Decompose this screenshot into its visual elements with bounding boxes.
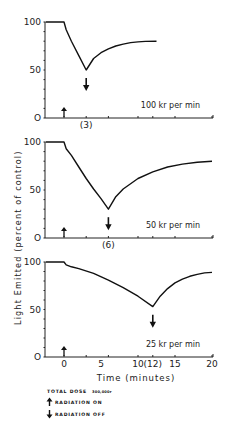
y-tick-label: O <box>34 233 41 243</box>
legend-radiation-off: RADIATION OFF <box>55 412 106 417</box>
x-axis-label: Time (minutes) <box>96 373 176 383</box>
x-tick-label: 5 <box>98 359 104 369</box>
radiation-light-chart: O50100(3)100 kr per minO50100(6)50 kr pe… <box>0 0 235 433</box>
x-tick-label: 20 <box>206 359 218 369</box>
x-tick-label: 10 <box>132 359 144 369</box>
y-tick-label: O <box>34 352 41 362</box>
legend-total-dose: TOTAL DOSE <box>47 389 87 394</box>
legend-radiation-on: RADIATION ON <box>55 400 102 405</box>
legend: TOTAL DOSE 300,000r RADIATION ON RADIATI… <box>47 389 112 419</box>
radiation-off-time-label: (3) <box>80 120 93 130</box>
radiation-on-arrowhead <box>61 107 67 111</box>
data-line <box>46 22 157 70</box>
radiation-off-arrowhead <box>150 322 156 328</box>
y-tick-label: 100 <box>24 257 41 267</box>
radiation-on-arrowhead <box>61 346 67 350</box>
x-tick-label: 0 <box>61 359 67 369</box>
y-tick-label: 50 <box>30 65 42 75</box>
x-tick-label: 15 <box>169 359 180 369</box>
y-tick-label: 100 <box>24 17 41 27</box>
panel-1: O50100(3)100 kr per min <box>24 17 213 130</box>
radiation-on-arrowhead <box>61 227 67 231</box>
y-tick-label: 50 <box>30 305 42 315</box>
y-axis-label: Light Emitted (percent of control) <box>14 150 23 325</box>
dose-rate-annotation: 100 kr per min <box>141 101 200 110</box>
radiation-on-icon <box>47 398 53 407</box>
radiation-off-arrowhead <box>105 224 111 230</box>
radiation-off-arrowhead <box>83 85 89 91</box>
radiation-off-icon <box>47 410 53 419</box>
y-tick-label: O <box>34 113 41 123</box>
data-line <box>46 262 213 307</box>
panel-2: O50100(6)50 kr per min <box>24 137 213 250</box>
legend-total-dose-value: 300,000r <box>92 390 112 394</box>
y-tick-label: 100 <box>24 137 41 147</box>
y-tick-label: 50 <box>30 185 42 195</box>
dose-rate-annotation: 50 kr per min <box>146 221 200 230</box>
panel-3: O501000510(12)152025 kr per min <box>24 257 218 369</box>
data-line <box>46 142 213 209</box>
dose-rate-annotation: 25 kr per min <box>146 340 200 349</box>
x-tick-label: (12) <box>144 359 162 369</box>
radiation-off-time-label: (6) <box>102 240 115 250</box>
